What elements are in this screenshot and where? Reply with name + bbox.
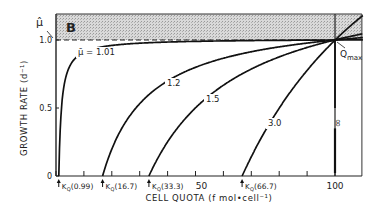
kq-value: (0.99) — [71, 182, 94, 191]
curve-1.2 — [103, 38, 363, 176]
kq-value: (16.7) — [115, 182, 138, 191]
mu-hat-label: μ̂ — [36, 16, 43, 29]
shaded-region — [56, 14, 362, 40]
curve-label: 1.5 — [206, 94, 220, 104]
curve-label: μ̄ = 1.01 — [78, 47, 115, 57]
y-axis-label: GROWTH RATE (d⁻¹) — [19, 60, 29, 156]
x-tick-label: 100 — [326, 181, 343, 191]
curve-1.01 — [59, 40, 363, 176]
y-tick-label: 0 — [47, 172, 52, 181]
x-axis-label: CELL QUOTA (f mol•cell⁻¹) — [146, 193, 273, 203]
y-tick-label: 1.0 — [39, 36, 52, 45]
qmax-sub: max — [347, 54, 362, 62]
growth-rate-chart: 00.51.0μ̂B∞μ̄ = 1.011.21.53.0QmaxKQ(0.99… — [0, 0, 382, 211]
curve-label: 3.0 — [268, 118, 282, 128]
panel-label: B — [66, 20, 76, 35]
qmax-pointer — [337, 42, 345, 48]
curve-label-infinity: ∞ — [333, 119, 344, 127]
y-tick-label: 0.5 — [39, 104, 52, 113]
kq-value: (66.7) — [254, 182, 277, 191]
curve-label: 1.2 — [167, 78, 181, 88]
curve-1.5 — [149, 34, 362, 176]
x-tick-label: 50 — [196, 181, 208, 191]
kq-value: (33.3) — [161, 182, 184, 191]
